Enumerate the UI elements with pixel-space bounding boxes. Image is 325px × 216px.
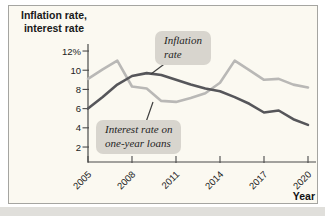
x-tick-label: 2005 <box>71 169 94 192</box>
page-background-strip <box>0 207 325 216</box>
x-tick-label: 2020 <box>291 169 314 192</box>
y-tick-label: 10 <box>70 65 81 76</box>
interest-callout-line2: one-year loans <box>105 137 172 151</box>
x-tick-label: 2017 <box>247 169 270 192</box>
interest-rate-callout: Interest rate on one-year loans <box>96 120 181 154</box>
y-axis-title: Inflation rate, interest rate <box>13 9 95 35</box>
x-tick-label: 2011 <box>159 169 181 191</box>
interest-callout-line1: Interest rate on <box>105 123 172 137</box>
inflation-rate-callout: Inflation rate <box>155 31 211 65</box>
y-tick-label: 12% <box>62 46 82 57</box>
y-tick-label: 4 <box>76 122 81 133</box>
y-axis-title-line1: Inflation rate, <box>13 9 95 22</box>
y-axis-title-line2: interest rate <box>13 22 95 35</box>
y-tick-label: 6 <box>76 103 81 114</box>
inflation-rate-line <box>88 73 308 125</box>
x-tick-label: 2008 <box>115 169 138 192</box>
screenshot-stage: 24681012%200520082011201420172020 Inflat… <box>0 0 325 216</box>
y-tick-label: 2 <box>76 142 81 153</box>
inflation-callout-line2: rate <box>164 48 202 62</box>
x-tick-label: 2014 <box>203 169 226 192</box>
y-tick-label: 8 <box>76 84 81 95</box>
inflation-callout-line1: Inflation <box>164 34 202 48</box>
interest-callout-pointer <box>146 102 153 122</box>
x-axis-title: Year <box>293 190 315 202</box>
